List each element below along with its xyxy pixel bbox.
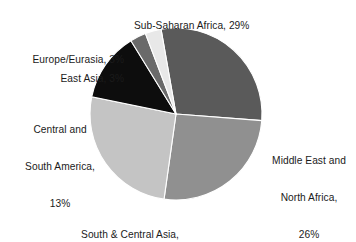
slice-label-text: East Asia, 3% [60, 73, 124, 84]
slice-label-line-2: North Africa, [262, 192, 356, 204]
slice-label-south-and-central-asia: South & Central Asia, 26% [44, 204, 216, 242]
slice-label-line-1: Central and [2, 124, 118, 136]
slice-label-line-3: 26% [262, 229, 356, 241]
slice-label-sub-saharan-africa: Sub-Saharan Africa, 29% [108, 8, 258, 45]
slice-label-east-asia: East Asia, 3% [4, 61, 124, 98]
slice-label-text: Sub-Saharan Africa, 29% [134, 20, 250, 31]
pie-chart-page: Sub-Saharan Africa, 29% Europe/Eurasia, … [0, 0, 356, 242]
pie-slice [164, 114, 262, 200]
pie-chart-figure: Sub-Saharan Africa, 29% Europe/Eurasia, … [0, 0, 356, 242]
slice-label-line-2: South America, [2, 161, 118, 173]
slice-label-line-1: Middle East and [262, 155, 356, 167]
slice-label-line-1: South & Central Asia, [44, 229, 216, 241]
slice-label-middle-east-and-north-africa: Middle East and North Africa, 26% [262, 130, 356, 242]
